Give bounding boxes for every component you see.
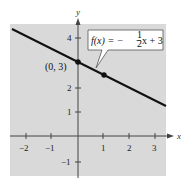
point-label: (0, 3) (45, 61, 67, 73)
point-1-2.5 (101, 72, 106, 77)
x-tick-label: 3 (152, 143, 157, 153)
x-axis-label: x (176, 131, 181, 141)
y-tick-label: −1 (61, 157, 71, 167)
x-tick-label: −2 (19, 143, 29, 153)
y-tick-label: 4 (67, 33, 72, 43)
x-tick-label: 1 (101, 143, 106, 153)
callout-fx: f(x) = − (91, 35, 123, 47)
callout-rest: x + 3 (142, 35, 163, 46)
y-axis-label: y (75, 7, 80, 17)
point-0-3 (75, 59, 80, 64)
callout-fx-text: f(x) = − (91, 35, 123, 47)
x-tick-label: 2 (127, 143, 132, 153)
x-tick-label: −1 (45, 143, 55, 153)
y-tick-label: 2 (67, 83, 72, 93)
y-tick-label: 1 (67, 107, 72, 117)
function-graph: x −2 −1 1 2 3 y 4 2 1 −1 (0, 3) f(x (0, 0, 191, 188)
x-axis-arrow-icon (167, 134, 174, 139)
y-axis-arrow-icon (76, 18, 81, 25)
